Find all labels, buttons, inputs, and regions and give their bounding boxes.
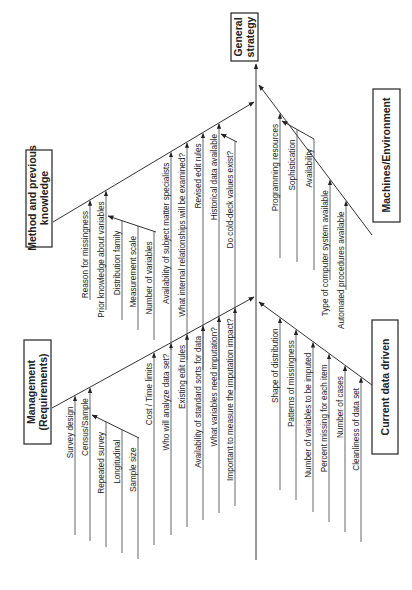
branch-machines: Machines/Environment Programming resourc…	[259, 85, 400, 329]
management-item-label: Availability of standard sorts for data	[194, 336, 203, 468]
method-item-label: Do cold-deck values exist?	[226, 151, 235, 249]
management-item-label: Census/Sample	[81, 398, 90, 456]
management-item-label: Cost / Time limits	[145, 363, 154, 425]
current-item-label: Cleanliness of data set	[352, 387, 361, 471]
general-strategy-line2: strategy	[244, 16, 256, 57]
management-item-label: Survey design	[66, 406, 75, 458]
current-item-label: Number of cases	[336, 376, 345, 438]
method-item-label: Distribution family	[113, 230, 122, 296]
method-item-label: Revised edit rules	[194, 143, 203, 208]
machines-item-label: Programming resources	[271, 124, 280, 211]
branch-management: Management (Requirements) Survey designC…	[24, 297, 254, 559]
method-item-label: Prior knowledge about variables	[97, 201, 106, 318]
method-item-label: Historical data available	[210, 133, 219, 220]
method-item-label: Reason for missingness	[81, 211, 90, 298]
current-label: Current data driven	[379, 339, 391, 436]
method-item-label: Availability of subject matter specialis…	[162, 163, 171, 304]
general-strategy-line1: General	[232, 17, 244, 56]
management-item-label: Repeated survey	[97, 431, 106, 494]
general-strategy-box: General strategy	[231, 13, 258, 61]
method-label-1: Method and previous	[26, 145, 38, 251]
management-item-label: Longitudinal	[113, 440, 122, 484]
fishbone-diagram: General strategy Method and previous kno…	[0, 0, 412, 590]
current-item-label: Number of variables to be imputed	[304, 352, 313, 478]
current-item-label: Shape of distribution	[271, 328, 280, 403]
machines-item-label: Availability	[305, 148, 314, 187]
machines-label: Machines/Environment	[380, 97, 392, 212]
management-item-label: Who will analyze data set?	[162, 353, 171, 450]
management-label-2: (Requirements)	[37, 353, 49, 430]
method-item-label: Number of variables	[145, 241, 154, 314]
management-item-label: Existing edit rules	[178, 345, 187, 409]
management-item-label: Important to measure the imputation impa…	[226, 318, 235, 481]
current-item-label: Patterns of missingness	[287, 340, 296, 427]
branch-current: Current data driven Shape of distributio…	[259, 302, 398, 542]
method-item-label: What internal relationships will be exam…	[178, 153, 187, 317]
method-label-2: knowledge	[38, 171, 50, 225]
machines-item-label: Type of computer system available	[321, 190, 330, 317]
branch-method: Method and previous knowledge Reason for…	[26, 102, 254, 390]
method-item-label: Measurement scale	[129, 236, 138, 308]
machines-item-label: Automated procedures available	[337, 211, 346, 329]
machines-item-label: Sophistication	[288, 139, 297, 190]
management-item-label: What variables need imputation?	[210, 327, 219, 447]
management-item-label: Sample size	[129, 447, 138, 492]
management-label-1: Management	[25, 359, 37, 424]
current-item-label: Percent missing for each item	[320, 364, 329, 472]
